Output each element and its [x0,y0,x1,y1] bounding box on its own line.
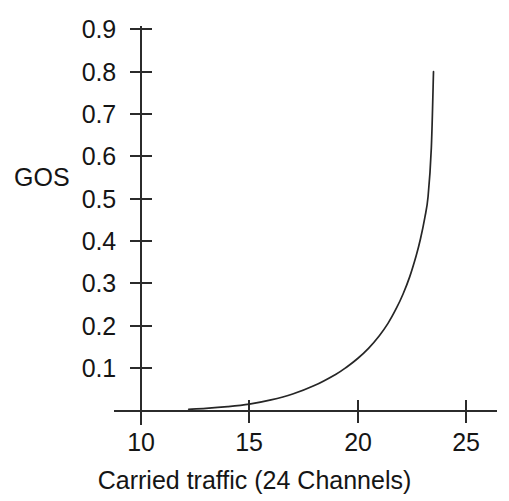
chart-figure: 0.9 0.8 0.7 0.6 0.5 0.4 0.3 0.2 0.1 10 1… [0,0,509,501]
gos-data-curve [189,72,434,410]
x-axis-title: Carried traffic (24 Channels) [0,466,509,495]
y-axis-title: GOS [14,163,70,192]
x-tick-label-20: 20 [344,428,371,457]
x-tick-label-15: 15 [235,428,262,457]
y-tick-label-0.7: 0.7 [38,100,116,129]
x-tick-label-25: 25 [452,428,479,457]
y-tick-label-0.8: 0.8 [38,58,116,87]
y-tick-label-0.2: 0.2 [38,312,116,341]
y-tick-label-0.3: 0.3 [38,269,116,298]
x-tick-label-10: 10 [127,428,154,457]
y-tick-label-0.1: 0.1 [38,354,116,383]
y-tick-label-0.9: 0.9 [38,15,116,44]
y-tick-label-0.4: 0.4 [38,227,116,256]
